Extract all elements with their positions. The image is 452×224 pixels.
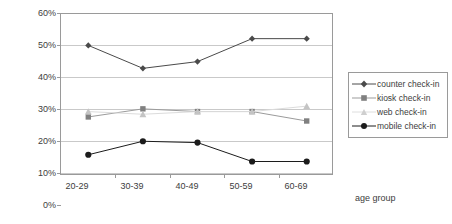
data-point [140, 106, 145, 111]
data-point [304, 36, 310, 42]
y-axis-label-10: 10% [12, 169, 56, 178]
x-axis-label-5: 60-69 [266, 182, 326, 191]
x-axis-label-4: 50-59 [211, 182, 271, 191]
legend-label-kiosk-check-in: kiosk check-in [377, 94, 430, 103]
data-point [249, 158, 255, 164]
y-axis-label-40: 40% [12, 73, 56, 82]
square-marker-icon [351, 92, 377, 104]
diamond-marker-icon [351, 78, 377, 90]
legend-item-web-check-in[interactable]: web check-in [351, 105, 444, 119]
triangle-marker-icon [351, 106, 377, 118]
x-axis-label-3: 40-49 [157, 182, 217, 191]
x-axis-title: age group [355, 194, 396, 203]
data-point [85, 42, 91, 48]
data-point [194, 59, 200, 65]
x-axis-label-2: 30-39 [102, 182, 162, 191]
y-axis-label-20: 20% [12, 137, 56, 146]
y-axis-label-30: 30% [12, 105, 56, 114]
data-point [194, 140, 200, 146]
series-group [61, 13, 334, 175]
y-axis-label-60: 60% [12, 9, 56, 18]
legend-label-counter-check-in: counter check-in [377, 80, 439, 89]
series-mobile-check-in [85, 138, 310, 164]
y-tick-0 [57, 205, 61, 206]
data-point [304, 158, 310, 164]
data-point [86, 114, 91, 119]
legend-label-web-check-in: web check-in [377, 108, 427, 117]
legend-item-counter-check-in[interactable]: counter check-in [351, 77, 444, 91]
y-axis-label-50: 50% [12, 41, 56, 50]
legend-item-mobile-check-in[interactable]: mobile check-in [351, 119, 444, 133]
legend-item-kiosk-check-in[interactable]: kiosk check-in [351, 91, 444, 105]
data-point [85, 152, 91, 158]
line-chart: 60% 50% 40% 30% 20% 10% 0% [0, 0, 452, 224]
circle-marker-icon [351, 120, 377, 132]
legend: counter check-in kiosk check-in web chec… [348, 72, 448, 138]
legend-label-mobile-check-in: mobile check-in [377, 122, 436, 131]
gridlines-group [61, 13, 332, 174]
data-point [140, 138, 146, 144]
x-axis-label-1: 20-29 [47, 182, 107, 191]
series-counter-check-in [85, 36, 310, 72]
y-axis-label-0: 0% [12, 201, 56, 210]
plot-area [60, 13, 333, 175]
data-point [304, 118, 309, 123]
data-point [249, 36, 255, 42]
series-web-check-in [85, 103, 310, 117]
data-point [140, 65, 146, 71]
